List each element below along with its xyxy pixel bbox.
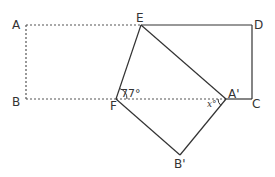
edge-f-b-prime: [116, 99, 180, 155]
label-e: E: [136, 11, 144, 25]
angle-arc-a-prime: [218, 99, 221, 105]
label-b: B: [12, 95, 20, 109]
label-c: C: [252, 97, 260, 111]
label-d: D: [254, 18, 263, 32]
angle-label-a-prime: x°: [207, 99, 217, 109]
label-b-prime: B': [174, 157, 186, 171]
edge-b-prime-a-prime: [180, 99, 226, 155]
folded-rectangle-diagram: A B E D C F A' B' 77° x°: [0, 0, 275, 177]
edge-e-a-prime: [141, 25, 226, 99]
label-a-prime: A': [228, 87, 240, 101]
angle-label-f: 77°: [121, 87, 141, 100]
label-a: A: [12, 18, 21, 32]
label-f: F: [110, 99, 117, 113]
